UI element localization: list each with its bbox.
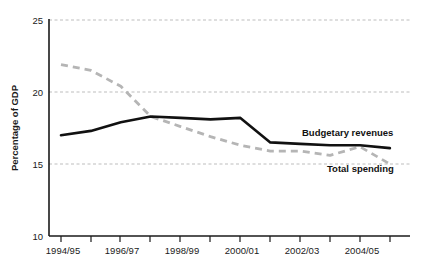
x-tick-label-2004-05: 2004/05 bbox=[345, 245, 379, 256]
chart-container: 25 20 15 10 1994/95 1996/97 1998/99 2000… bbox=[0, 0, 424, 267]
x-tick-label-2000-01: 2000/01 bbox=[225, 245, 259, 256]
x-tick-label-1996-97: 1996/97 bbox=[105, 245, 139, 256]
series-label-budgetary-revenues: Budgetary revenues bbox=[302, 127, 393, 138]
x-tick-marks bbox=[61, 236, 390, 242]
gridlines bbox=[49, 20, 410, 164]
series-total-spending bbox=[61, 65, 390, 164]
x-tick-label-2002-03: 2002/03 bbox=[285, 245, 319, 256]
x-tick-label-1994-95: 1994/95 bbox=[46, 245, 80, 256]
y-tick-label-15: 15 bbox=[32, 159, 43, 170]
y-tick-label-10: 10 bbox=[32, 231, 43, 242]
line-chart: 25 20 15 10 1994/95 1996/97 1998/99 2000… bbox=[0, 0, 424, 267]
series-label-total-spending: Total spending bbox=[327, 163, 394, 174]
y-tick-label-20: 20 bbox=[32, 87, 43, 98]
y-tick-labels: 25 20 15 10 bbox=[32, 15, 43, 242]
y-tick-label-25: 25 bbox=[32, 15, 43, 26]
y-axis-title: Percentage of GDP bbox=[9, 84, 20, 171]
x-tick-labels: 1994/95 1996/97 1998/99 2000/01 2002/03 … bbox=[46, 245, 379, 256]
x-tick-label-1998-99: 1998/99 bbox=[165, 245, 199, 256]
